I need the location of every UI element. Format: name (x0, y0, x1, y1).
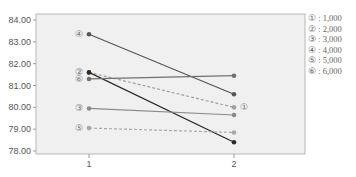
data-point (87, 77, 92, 82)
y-tick-label: 83.00 (8, 37, 31, 47)
line-chart: 84.0083.0082.0081.0080.0079.0078.00 12 ①… (0, 0, 356, 177)
data-point (87, 70, 92, 75)
y-tick-label: 79.00 (8, 124, 31, 134)
data-point (232, 73, 237, 78)
x-tick-label: 2 (231, 159, 236, 169)
legend-item: ⑤ : 5,000 (308, 55, 342, 66)
series-label: ⑤ (75, 123, 83, 133)
x-axis: 12 (86, 154, 236, 169)
y-tick-label: 82.00 (8, 59, 31, 69)
legend-item: ① : 1,000 (308, 13, 342, 24)
y-axis: 84.0083.0082.0081.0080.0079.0078.00 (8, 15, 36, 156)
legend-item: ⑥ : 6,000 (308, 66, 342, 77)
data-point (87, 106, 92, 111)
y-tick-label: 78.00 (8, 146, 31, 156)
legend-item: ② : 2,000 (308, 24, 342, 35)
legend: ① : 1,000 ② : 2,000 ③ : 3,000 ④ : 4,000 … (308, 13, 342, 76)
legend-item: ④ : 4,000 (308, 45, 342, 56)
data-point (87, 126, 92, 131)
data-point (232, 92, 237, 97)
series-label: ① (240, 102, 248, 112)
data-point (87, 32, 92, 37)
x-tick-label: 1 (86, 159, 91, 169)
series-label: ③ (75, 103, 83, 113)
data-point (232, 140, 237, 145)
data-point (232, 105, 237, 110)
legend-item: ③ : 3,000 (308, 34, 342, 45)
y-tick-label: 80.00 (8, 102, 31, 112)
data-point (232, 130, 237, 135)
y-tick-label: 81.00 (8, 81, 31, 91)
series-label: ⑥ (75, 74, 83, 84)
data-point (232, 113, 237, 118)
y-tick-label: 84.00 (8, 15, 31, 25)
series-label: ④ (75, 29, 83, 39)
